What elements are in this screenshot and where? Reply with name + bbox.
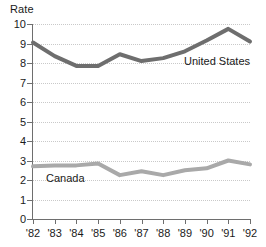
line-chart: Rate 109876543210 '82'83'84'85'86'87'88'… — [0, 0, 266, 247]
series-label-canada: Canada — [46, 172, 85, 184]
series-layer — [0, 0, 266, 247]
series-label-united-states: United States — [184, 55, 250, 67]
